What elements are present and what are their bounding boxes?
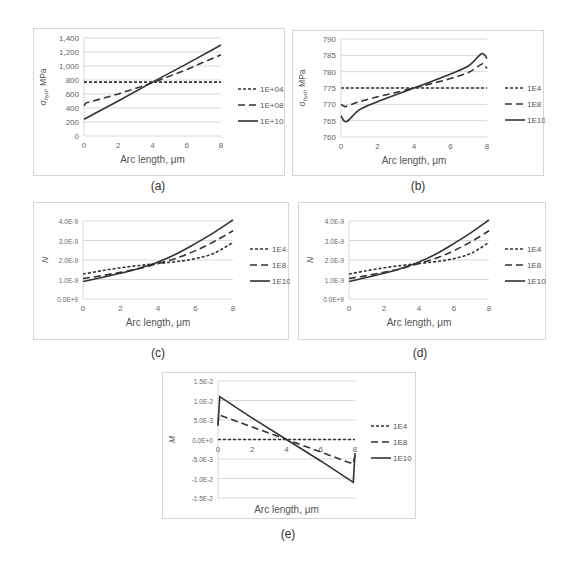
x-tick-label: 4 (156, 304, 161, 313)
x-axis-label: Arc length, μm (387, 317, 452, 328)
x-tick-label: 6 (185, 141, 190, 150)
y-tick-label: 800 (66, 76, 80, 85)
y-tick-label: 760 (323, 133, 337, 142)
legend-label: 1E8 (527, 100, 542, 109)
x-tick-label: 0 (347, 304, 352, 313)
x-tick-label: 4 (417, 304, 422, 313)
series-line-1E10 (83, 220, 233, 281)
y-tick-label: 785 (323, 51, 337, 60)
x-tick-label: 6 (452, 304, 457, 313)
caption-e: (e) (268, 527, 308, 541)
legend-label: 1E8 (272, 261, 287, 270)
x-axis-label: Arc length, μm (254, 504, 319, 515)
legend-label: 1E+08 (260, 101, 284, 110)
y-tick-label: 400 (66, 104, 80, 113)
y-tick-label: 765 (323, 117, 337, 126)
series-line-1E4 (349, 242, 489, 274)
legend-label: 1E8 (527, 261, 542, 270)
legend-label: 1E4 (527, 84, 542, 93)
series-line-1E8 (341, 64, 487, 107)
y-tick-label: 5.0E-3 (194, 417, 214, 424)
series-line-1E8 (83, 231, 233, 279)
caption-d: (d) (400, 346, 440, 360)
caption-c: (c) (138, 346, 178, 360)
y-tick-label: 1,000 (59, 62, 80, 71)
y-axis-label: σhyd, MPa (38, 68, 49, 105)
chart-panel-e: -1.5E-2-1.0E-2-5.0E-30.0E+05.0E-31.0E-21… (162, 372, 416, 519)
x-tick-label: 2 (382, 304, 387, 313)
x-tick-label: 8 (353, 445, 358, 454)
y-tick-label: 780 (323, 68, 337, 77)
y-tick-label: 2.0E-9 (59, 257, 79, 264)
x-tick-label: 2 (375, 142, 380, 151)
y-tick-label: 1,200 (59, 48, 80, 57)
x-tick-label: 0 (81, 304, 86, 313)
y-tick-label: 0 (75, 132, 80, 141)
chart-panel-c: 0.0E+91.0E-92.0E-93.0E-94.0E-902468Arc l… (33, 202, 289, 340)
chart-a-svg: 02004006008001,0001,2001,40002468Arc len… (34, 29, 286, 177)
x-tick-label: 4 (412, 142, 417, 151)
chart-c-svg: 0.0E+91.0E-92.0E-93.0E-94.0E-902468Arc l… (34, 203, 290, 341)
legend-label: 1E+04 (260, 85, 284, 94)
x-tick-label: 2 (250, 445, 255, 454)
y-tick-label: 4.0E-9 (325, 218, 345, 225)
y-tick-label: 790 (323, 35, 337, 44)
x-tick-label: 0 (82, 141, 87, 150)
y-tick-label: 0.0E+0 (192, 437, 213, 444)
x-tick-label: 4 (284, 445, 289, 454)
legend-label: 1E10 (527, 116, 545, 125)
y-tick-label: 1.5E-2 (194, 378, 214, 385)
y-tick-label: -5.0E-3 (192, 456, 214, 463)
legend-label: 1E4 (272, 245, 287, 254)
y-axis-label: N (40, 256, 50, 263)
y-tick-label: 0.0E+9 (57, 296, 78, 303)
y-tick-label: 1.0E-9 (325, 277, 345, 284)
chart-panel-d: 0.0E+91.0E-92.0E-93.0E-94.0E-902468Arc l… (298, 202, 546, 340)
legend-label: 1E4 (527, 245, 542, 254)
chart-panel-b: 76076577077578078579002468Arc length, μm… (292, 30, 544, 176)
chart-b-svg: 76076577077578078579002468Arc length, μm… (293, 31, 545, 177)
y-tick-label: 200 (66, 118, 80, 127)
chart-panel-a: 02004006008001,0001,2001,40002468Arc len… (33, 28, 285, 176)
y-axis-label: N (305, 256, 315, 263)
x-tick-label: 6 (448, 142, 453, 151)
y-tick-label: 600 (66, 90, 80, 99)
y-axis-label: M (167, 435, 177, 443)
series-line-1E4 (83, 242, 233, 274)
y-tick-label: 0.0E+9 (323, 296, 344, 303)
y-tick-label: -1.5E-2 (192, 495, 214, 502)
legend-label: 1E10 (393, 454, 412, 463)
legend-label: 1E+10 (260, 117, 284, 126)
legend-label: 1E10 (527, 277, 546, 286)
x-tick-label: 8 (487, 304, 492, 313)
caption-a: (a) (138, 179, 178, 193)
series-line-1E10 (349, 220, 489, 281)
legend-label: 1E10 (272, 277, 290, 286)
x-axis-label: Arc length, μm (120, 154, 185, 165)
y-tick-label: -1.0E-2 (192, 476, 214, 483)
legend-label: 1E4 (393, 422, 408, 431)
x-axis-label: Arc length, μm (126, 317, 191, 328)
y-tick-label: 4.0E-9 (59, 218, 79, 225)
legend-label: 1E8 (393, 438, 408, 447)
x-tick-label: 8 (219, 141, 224, 150)
y-tick-label: 1.0E-9 (59, 277, 79, 284)
y-tick-label: 775 (323, 84, 337, 93)
y-tick-label: 3.0E-9 (59, 238, 79, 245)
x-tick-label: 4 (150, 141, 155, 150)
x-axis-label: Arc length, μm (382, 155, 447, 166)
x-tick-label: 0 (339, 142, 344, 151)
y-tick-label: 1.0E-2 (194, 398, 214, 405)
x-tick-label: 8 (485, 142, 490, 151)
x-tick-label: 2 (116, 141, 121, 150)
x-tick-label: 6 (193, 304, 198, 313)
x-tick-label: 8 (231, 304, 236, 313)
y-axis-label: σhyd, MPa (297, 69, 308, 106)
x-tick-label: 0 (216, 445, 221, 454)
caption-b: (b) (398, 179, 438, 193)
chart-d-svg: 0.0E+91.0E-92.0E-93.0E-94.0E-902468Arc l… (299, 203, 547, 341)
y-tick-label: 1,400 (59, 34, 80, 43)
chart-e-svg: -1.5E-2-1.0E-2-5.0E-30.0E+05.0E-31.0E-21… (163, 373, 417, 520)
y-tick-label: 3.0E-9 (325, 238, 345, 245)
y-tick-label: 770 (323, 100, 337, 109)
